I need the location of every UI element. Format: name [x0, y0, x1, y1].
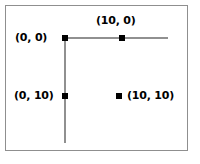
point-label-0-10: (0, 10): [14, 90, 54, 102]
vertical-axis-line: [64, 37, 66, 143]
point-marker-0-10: [62, 93, 68, 99]
horizontal-axis-line: [64, 37, 168, 39]
point-marker-10-10: [116, 93, 122, 99]
plot-area: (0, 0) (10, 0) (0, 10) (10, 10): [6, 6, 187, 150]
point-label-10-0: (10, 0): [96, 15, 136, 27]
point-label-10-10: (10, 10): [127, 90, 174, 102]
point-label-0-0: (0, 0): [15, 32, 47, 44]
point-marker-10-0: [119, 35, 125, 41]
diagram-frame: (0, 0) (10, 0) (0, 10) (10, 10): [5, 5, 188, 151]
point-marker-0-0: [62, 35, 68, 41]
